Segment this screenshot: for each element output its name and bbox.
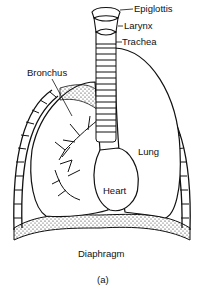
heart — [94, 148, 138, 211]
label-diaphragm: Diaphragm — [78, 249, 124, 259]
label-epiglottis: Epiglottis — [134, 4, 173, 14]
label-bronchus: Bronchus — [27, 68, 67, 78]
trachea — [96, 42, 116, 142]
label-trachea: Trachea — [122, 37, 157, 47]
larynx — [92, 8, 120, 45]
figure-caption: (a) — [97, 275, 109, 285]
label-lung: Lung — [138, 147, 159, 157]
label-larynx: Larynx — [124, 21, 153, 31]
label-heart: Heart — [103, 186, 126, 196]
